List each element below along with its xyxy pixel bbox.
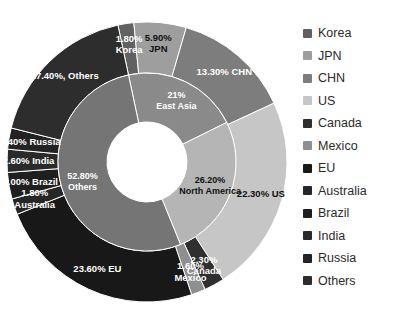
legend-swatch-icon — [303, 231, 312, 240]
slice-value-label: 21% — [167, 90, 185, 100]
slice-name-label: Mexico — [174, 272, 206, 283]
legend-item-label: EU — [318, 162, 335, 175]
slice-value-label: 3.00% Brazil — [2, 176, 57, 187]
slice-value-label: 52.80% — [67, 171, 98, 181]
slice-name-label: JPN — [149, 43, 168, 54]
slice-name-label: East Asia — [156, 101, 197, 111]
slice-name-label: Others — [68, 182, 97, 192]
legend-item-label: India — [318, 230, 345, 243]
slice-value-label: 1.80% — [116, 33, 143, 44]
nested-donut-chart: 1.80%Korea5.90%JPN13.30% CHN22.30% US2.3… — [0, 0, 300, 317]
inner-ring-group — [58, 73, 236, 251]
legend-swatch-icon — [303, 164, 312, 173]
legend-swatch-icon — [303, 209, 312, 218]
legend-item[interactable]: Russia — [297, 247, 393, 270]
legend-swatch-icon — [303, 186, 312, 195]
slice-value-label: 2.60% India — [3, 155, 55, 166]
legend-swatch-icon — [303, 141, 312, 150]
legend-swatch-icon — [303, 51, 312, 60]
legend-swatch-icon — [303, 74, 312, 83]
slice-value-label: 17.40%, Others — [31, 70, 99, 81]
donut-chart-page: 1.80%Korea5.90%JPN13.30% CHN22.30% US2.3… — [0, 0, 393, 317]
slice-value-label: 2.40% Russia — [0, 136, 61, 147]
legend-item[interactable]: CHN — [297, 67, 393, 90]
legend-item[interactable]: Mexico — [297, 135, 393, 158]
legend-item[interactable]: Australia — [297, 180, 393, 203]
slice-value-label: 5.90% — [145, 32, 172, 43]
slice-value-label: 23.60% EU — [73, 263, 121, 274]
legend-item[interactable]: US — [297, 90, 393, 113]
legend-item-label: JPN — [318, 50, 342, 63]
chart-legend: KoreaJPNCHNUSCanadaMexicoEUAustraliaBraz… — [297, 0, 393, 317]
legend-item[interactable]: India — [297, 225, 393, 248]
legend-item-label: Brazil — [318, 207, 349, 220]
legend-item-label: CHN — [318, 72, 345, 85]
legend-item-label: Mexico — [318, 140, 358, 153]
legend-swatch-icon — [303, 276, 312, 285]
slice-value-label: 22.30% US — [237, 188, 285, 199]
slice-value-label: 1.80% — [21, 187, 48, 198]
slice-value-label: 26.20% — [195, 175, 226, 185]
legend-item-label: US — [318, 95, 335, 108]
slice-name-label: North America — [179, 186, 242, 196]
legend-swatch-icon — [303, 254, 312, 263]
legend-item[interactable]: JPN — [297, 45, 393, 68]
legend-item-label: Others — [318, 275, 356, 288]
legend-swatch-icon — [303, 29, 312, 38]
legend-swatch-icon — [303, 96, 312, 105]
slice-value-label: 13.30% CHN — [197, 66, 253, 77]
chart-area: 1.80%Korea5.90%JPN13.30% CHN22.30% US2.3… — [0, 0, 300, 317]
legend-item[interactable]: EU — [297, 157, 393, 180]
legend-item[interactable]: Canada — [297, 112, 393, 135]
slice-name-label: Australia — [14, 199, 55, 210]
slice-name-label: Korea — [116, 44, 144, 55]
slice-value-label: 1.60% — [177, 260, 204, 271]
legend-item-label: Canada — [318, 117, 362, 130]
legend-item-label: Australia — [318, 185, 367, 198]
legend-item-label: Russia — [318, 252, 356, 265]
legend-item[interactable]: Brazil — [297, 202, 393, 225]
legend-swatch-icon — [303, 119, 312, 128]
legend-item[interactable]: Korea — [297, 22, 393, 45]
legend-item-label: Korea — [318, 27, 351, 40]
legend-item[interactable]: Others — [297, 270, 393, 293]
